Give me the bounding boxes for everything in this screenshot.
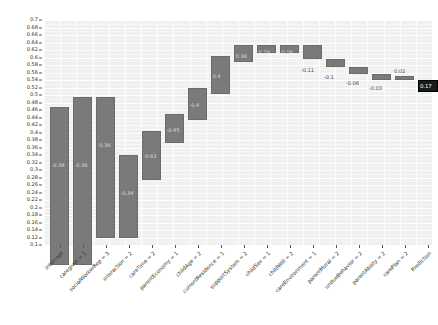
waterfall-bar[interactable]: [96, 97, 115, 238]
x-axis-tick-mark: [290, 245, 291, 248]
waterfall-bar[interactable]: [119, 155, 138, 238]
y-axis-tick-label: 0.4: [30, 130, 38, 135]
y-axis-tick-mark: [39, 230, 42, 231]
y-axis: 0.70.680.660.640.620.60.580.560.540.520.…: [0, 20, 42, 245]
bar-value-label: -0.38: [52, 162, 65, 168]
grid-line-horizontal-minor: [44, 31, 432, 32]
x-axis-tick-mark: [106, 245, 107, 248]
y-axis-tick-label: 0.64: [27, 40, 38, 45]
y-axis-tick-mark: [39, 95, 42, 96]
y-axis-tick-label: 0.66: [27, 32, 38, 37]
x-axis-tick-mark: [244, 245, 245, 248]
bar-value-label: -0.11: [301, 67, 314, 73]
grid-line-horizontal: [44, 95, 432, 96]
y-axis-tick-mark: [39, 215, 42, 216]
y-axis-tick-label: 0.2: [30, 205, 38, 210]
y-axis-tick-label: 0.68: [27, 25, 38, 30]
y-axis-tick-mark: [39, 72, 42, 73]
bar-value-label: 0.02: [394, 68, 405, 74]
bar-value-label: -0.06: [346, 80, 359, 86]
y-axis-tick-mark: [39, 177, 42, 178]
y-axis-tick-label: 0.18: [27, 212, 38, 217]
y-axis-tick-mark: [39, 185, 42, 186]
y-axis-tick-mark: [39, 222, 42, 223]
y-axis-tick-label: 0.14: [27, 227, 38, 232]
grid-line-horizontal-minor: [44, 241, 432, 242]
y-axis-tick-mark: [39, 155, 42, 156]
waterfall-bar[interactable]: [372, 74, 391, 80]
bar-value-label: -0.34: [121, 190, 134, 196]
y-axis-tick-mark: [39, 57, 42, 58]
x-axis-tick-mark: [198, 245, 199, 248]
y-axis-tick-label: 0.52: [27, 85, 38, 90]
x-axis-tick-mark: [336, 245, 337, 248]
y-axis-tick-mark: [39, 20, 42, 21]
bar-value-label: -0.1: [324, 74, 334, 80]
y-axis-tick-label: 0.7: [30, 17, 38, 22]
bar-value-label: 0.38: [236, 53, 247, 59]
grid-line-horizontal-minor: [44, 39, 432, 40]
grid-line-vertical: [432, 20, 433, 245]
y-axis-tick-label: 0.3: [30, 167, 38, 172]
y-axis-tick-label: 0.36: [27, 145, 38, 150]
y-axis-tick-mark: [39, 87, 42, 88]
y-axis-tick-mark: [39, 140, 42, 141]
waterfall-bar[interactable]: [349, 67, 368, 74]
y-axis-tick-label: 0.38: [27, 137, 38, 142]
y-axis-tick-label: 0.56: [27, 70, 38, 75]
bar-value-label: -0.03: [369, 85, 382, 91]
x-axis-tick-mark: [83, 245, 84, 248]
bar-value-label: -0.45: [167, 127, 180, 133]
waterfall-bar[interactable]: [395, 76, 414, 80]
x-axis-tick-mark: [405, 245, 406, 248]
y-axis-tick-mark: [39, 125, 42, 126]
x-axis-tick-mark: [60, 245, 61, 248]
y-axis-tick-label: 0.12: [27, 235, 38, 240]
y-axis-tick-label: 0.54: [27, 77, 38, 82]
x-axis-tick-mark: [267, 245, 268, 248]
waterfall-bar[interactable]: [326, 59, 345, 67]
x-axis-tick-mark: [175, 245, 176, 248]
y-axis-tick-mark: [39, 162, 42, 163]
grid-line-horizontal: [44, 80, 432, 81]
x-axis-tick-mark: [129, 245, 130, 248]
y-axis-tick-mark: [39, 117, 42, 118]
x-axis-tick-mark: [313, 245, 314, 248]
bar-value-label: -0.4: [190, 102, 200, 108]
x-axis-tick-mark: [221, 245, 222, 248]
grid-line-horizontal-minor: [44, 91, 432, 92]
y-axis-tick-label: 0.26: [27, 182, 38, 187]
bar-value-label: 0.19: [259, 49, 270, 55]
grid-line-horizontal: [44, 28, 432, 29]
grid-line-horizontal: [44, 35, 432, 36]
grid-line-horizontal: [44, 20, 432, 21]
grid-line-horizontal-minor: [44, 24, 432, 25]
y-axis-tick-mark: [39, 132, 42, 133]
waterfall-bar[interactable]: [73, 97, 92, 265]
y-axis-tick-label: 0.62: [27, 47, 38, 52]
y-axis-tick-label: 0.34: [27, 152, 38, 157]
y-axis-tick-label: 0.28: [27, 175, 38, 180]
bar-value-label: 0.4: [213, 73, 221, 79]
y-axis-tick-label: 0.24: [27, 190, 38, 195]
waterfall-bar[interactable]: [50, 107, 69, 266]
waterfall-bar[interactable]: [303, 45, 322, 59]
y-axis-tick-mark: [39, 80, 42, 81]
bar-value-label: -0.36: [75, 162, 88, 168]
y-axis-tick-mark: [39, 110, 42, 111]
bar-value-label: 0.16: [282, 49, 293, 55]
bar-value-label: -0.36: [98, 142, 111, 148]
y-axis-tick-mark: [39, 245, 42, 246]
plot-area: -0.38-0.36-0.36-0.34-0.63-0.45-0.40.40.3…: [44, 20, 432, 245]
y-axis-tick-mark: [39, 50, 42, 51]
grid-line-horizontal: [44, 245, 432, 246]
bar-value-label: -0.63: [144, 153, 157, 159]
bar-value-label: 0.17: [420, 83, 432, 89]
grid-line-horizontal: [44, 65, 432, 66]
y-axis-tick-label: 0.44: [27, 115, 38, 120]
y-axis-tick-mark: [39, 237, 42, 238]
x-axis-tick-mark: [152, 245, 153, 248]
x-axis-tick-label: intercept: [0, 250, 64, 325]
x-axis-tick-mark: [428, 245, 429, 248]
